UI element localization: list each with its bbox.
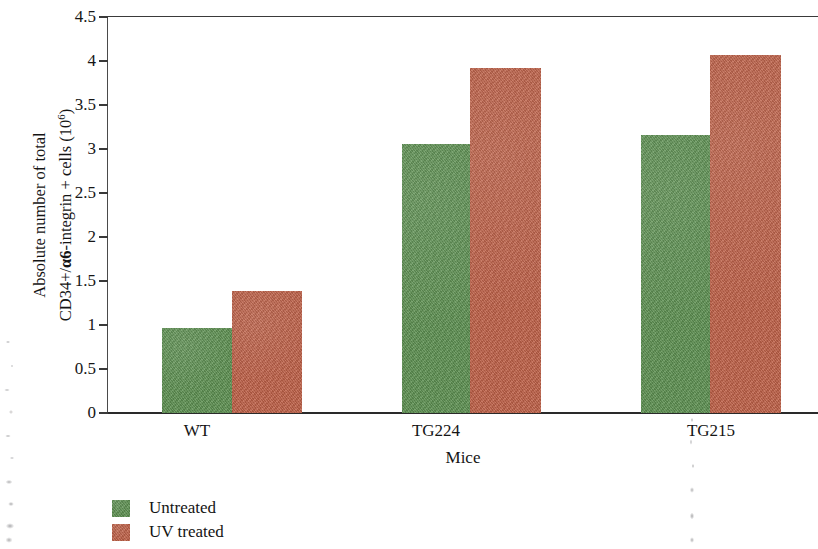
y-axis-tick-label: 2 xyxy=(32,228,96,245)
chart-legend: UntreatedUV treated xyxy=(112,496,224,544)
bar-TG215-untreated xyxy=(641,135,710,413)
y-axis-tick-label: 4.5 xyxy=(32,8,96,25)
y-axis-tick-mark xyxy=(99,16,108,17)
x-axis-label-TG224: TG224 xyxy=(376,421,496,441)
y-axis-tick-mark xyxy=(99,192,108,193)
scan-artifact-left-edge xyxy=(2,332,18,546)
y-axis-tick-mark xyxy=(99,104,108,105)
legend-item-untreated: Untreated xyxy=(112,496,224,520)
y-axis-tick-mark xyxy=(99,412,108,413)
bars-layer xyxy=(108,17,818,413)
x-axis-label-TG215: TG215 xyxy=(651,421,771,441)
y-axis-tick-mark xyxy=(99,368,108,369)
y-axis-tick-label: 1 xyxy=(32,316,96,333)
legend-label: UV treated xyxy=(149,522,224,542)
bar-TG224-untreated xyxy=(402,144,470,413)
y-axis-tick-mark xyxy=(99,60,108,61)
x-axis-title: Mice xyxy=(108,448,818,468)
bar-TG215-uv-treated xyxy=(710,55,781,413)
bar-WT-uv-treated xyxy=(232,291,302,413)
y-axis-title: Absolute number of total CD34+/α6-integr… xyxy=(22,17,84,413)
y-axis-tick-label: 0.5 xyxy=(32,360,96,377)
legend-swatch-icon xyxy=(112,524,130,541)
legend-label: Untreated xyxy=(149,498,216,518)
y-axis-tick-label: 2.5 xyxy=(32,184,96,201)
y-axis-tick-label: 1.5 xyxy=(32,272,96,289)
y-axis-tick-mark xyxy=(99,324,108,325)
y-axis-title-exponent: 6 xyxy=(55,114,67,119)
y-axis-title-alpha6: α6 xyxy=(56,250,75,267)
y-axis-tick-label: 3.5 xyxy=(32,96,96,113)
y-axis-tick-mark xyxy=(99,236,108,237)
legend-swatch-icon xyxy=(112,500,130,517)
bar-WT-untreated xyxy=(162,328,232,413)
y-axis-tick-label: 4 xyxy=(32,52,96,69)
y-axis-tick-mark xyxy=(99,148,108,149)
bar-TG224-uv-treated xyxy=(470,68,541,413)
y-axis-tick-mark xyxy=(99,280,108,281)
y-axis-tick-label: 0 xyxy=(32,404,96,421)
legend-item-uv-treated: UV treated xyxy=(112,520,224,544)
x-axis-label-WT: WT xyxy=(137,421,257,441)
bar-chart-figure: Absolute number of total CD34+/α6-integr… xyxy=(0,0,818,549)
y-axis-tick-label: 3 xyxy=(32,140,96,157)
